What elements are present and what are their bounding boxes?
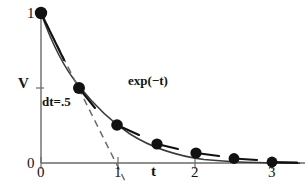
tangent-segment-t0 xyxy=(41,13,64,60)
y-axis-tick-label-0: 0 xyxy=(27,156,35,171)
exponential-decay-figure: 1 0 V 0 1 2 3 t exp(−t) dt=.5 xyxy=(0,0,305,185)
x-axis-tick-label-0: 0 xyxy=(37,165,45,180)
x-axis-tick-label-2: 2 xyxy=(191,165,199,180)
data-point-t05 xyxy=(73,82,85,94)
plot-canvas xyxy=(0,0,305,185)
step-size-annotation: dt=.5 xyxy=(42,95,71,108)
data-point-t15 xyxy=(151,138,162,149)
y-axis-label: V xyxy=(18,76,29,91)
x-axis-tick-label-3: 3 xyxy=(268,165,276,180)
y-axis-tick-label-1: 1 xyxy=(27,6,35,21)
data-point-t25 xyxy=(229,153,240,164)
x-axis-label: t xyxy=(151,164,156,179)
data-point-t2 xyxy=(190,147,201,158)
data-point-t0 xyxy=(35,7,47,19)
curve-annotation: exp(−t) xyxy=(128,74,168,87)
x-axis-tick-label-1: 1 xyxy=(114,165,122,180)
data-point-t1 xyxy=(111,119,123,131)
